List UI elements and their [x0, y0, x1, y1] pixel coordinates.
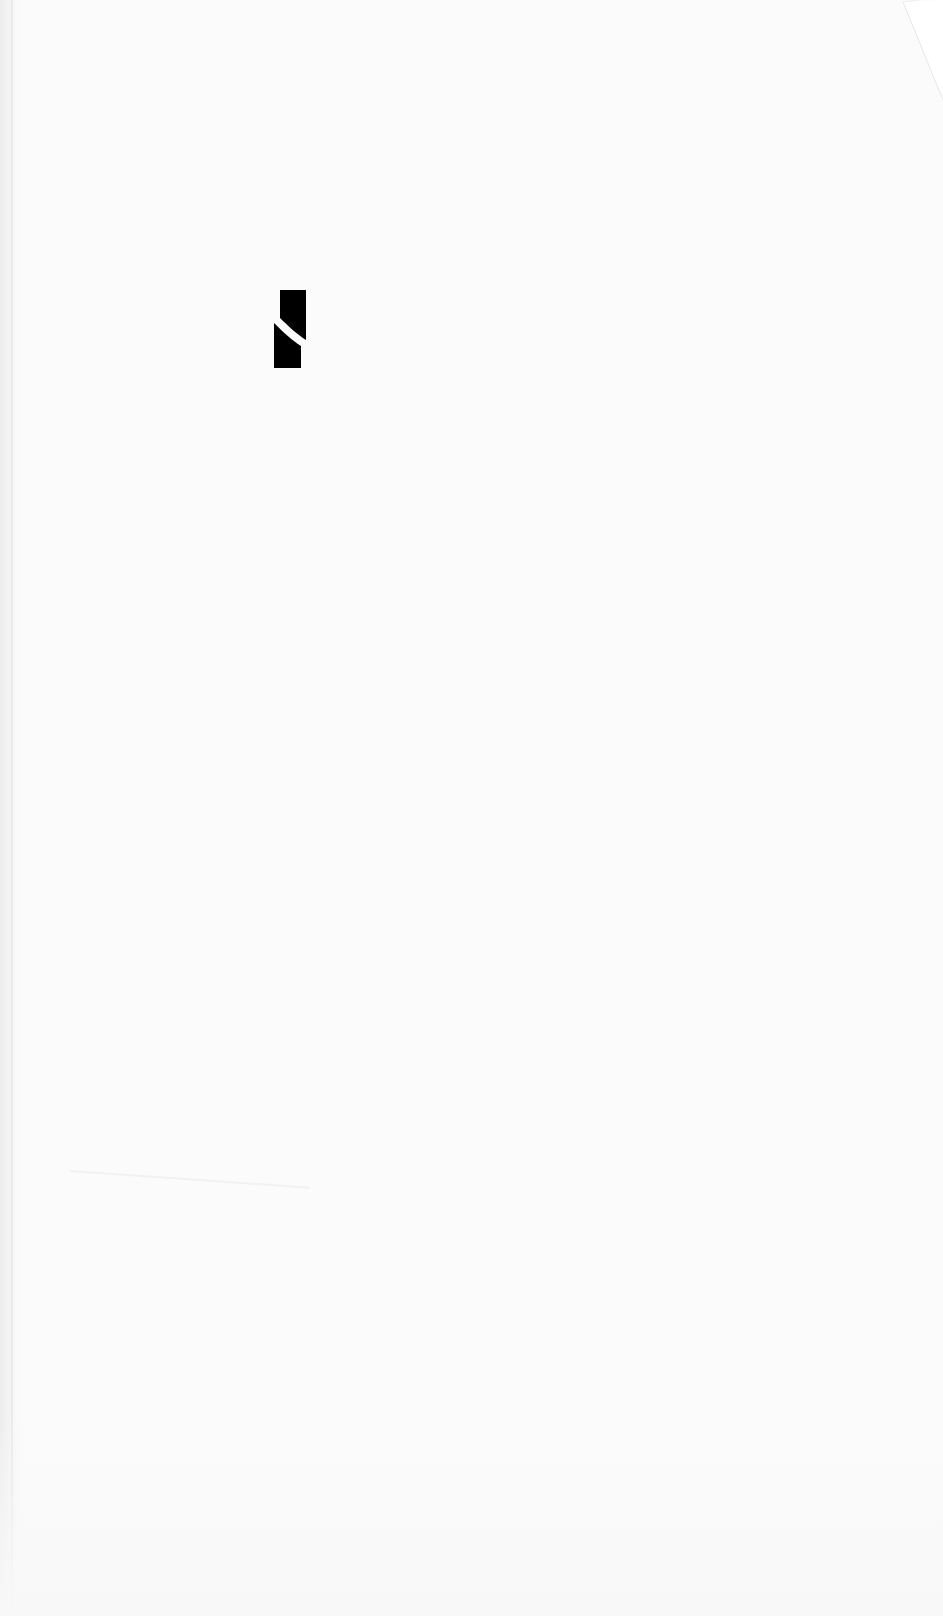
document-page — [0, 0, 943, 1616]
folded-corner-icon — [833, 0, 943, 110]
scan-bottom-tone — [0, 1396, 943, 1616]
scan-artifact — [70, 1170, 310, 1189]
split-bar-logo-icon — [274, 290, 308, 370]
binding-edge-line — [11, 0, 13, 1616]
